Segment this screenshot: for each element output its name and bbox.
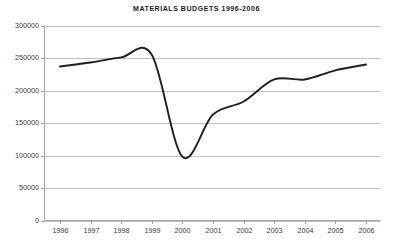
plot-area bbox=[0, 0, 393, 247]
data-line-series-materials-budget bbox=[60, 48, 366, 159]
axis-lines bbox=[45, 26, 381, 221]
tick-marks bbox=[41, 27, 367, 225]
chart-container: MATERIALS BUDGETS 1996-2006 050000100000… bbox=[0, 0, 393, 247]
gridlines bbox=[45, 27, 381, 222]
